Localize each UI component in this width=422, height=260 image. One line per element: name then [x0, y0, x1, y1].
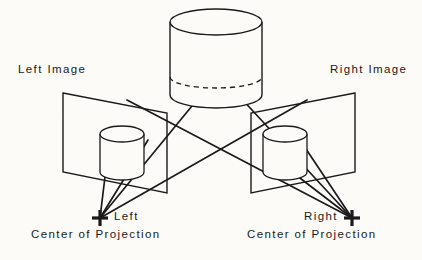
left-projected-cylinder-top-ellipse — [100, 126, 144, 142]
right-image-label: Right Image — [330, 64, 407, 76]
left-image-label: Left Image — [18, 64, 86, 76]
diagram-canvas — [0, 0, 422, 260]
left-projected-cylinder — [100, 126, 144, 180]
left-cop-caption-label: Center of Projection — [31, 229, 161, 241]
left-cop-name-label: Left — [114, 211, 139, 223]
scene-cylinder-top-ellipse — [170, 9, 262, 35]
stereo-projection-figure: Left Image Right Image Left Right Center… — [0, 0, 422, 260]
right-cop-name-label: Right — [304, 211, 338, 223]
right-projected-cylinder — [263, 126, 307, 180]
right-projected-cylinder-top-ellipse — [263, 126, 307, 142]
scene-cylinder — [170, 9, 262, 108]
right-cop-caption-label: Center of Projection — [247, 229, 377, 241]
